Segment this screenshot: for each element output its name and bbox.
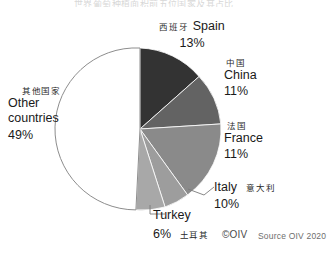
- pie-label-china-en: China: [224, 68, 257, 83]
- pie-label-other-en-line2: countries: [8, 111, 94, 126]
- copyright-mark: ©OIV: [222, 229, 247, 240]
- pie-chart-figure: 世界葡萄种植面积前五位国家及其占比 西班牙 Spain 13%: [0, 0, 330, 256]
- pie-label-other-en-line1: Other: [8, 96, 94, 111]
- pie-label-spain-cn: 西班牙: [159, 22, 188, 32]
- pie-label-italy-pct: 10%: [214, 197, 275, 212]
- pie-label-turkey-pct-row: 6% 土耳其: [153, 224, 208, 243]
- pie-label-china-pct: 11%: [224, 84, 257, 99]
- pie-label-turkey-pct: 6%: [153, 227, 171, 241]
- pie-label-spain: 西班牙 Spain 13%: [146, 16, 238, 51]
- pie-label-spain-name: 西班牙 Spain: [146, 16, 238, 35]
- pie-label-france-pct: 11%: [224, 147, 263, 162]
- pie-label-turkey-en: Turkey: [153, 208, 208, 223]
- pie-label-turkey: Turkey 6% 土耳其: [153, 208, 208, 243]
- pie-label-italy-name: Italy 意大利: [214, 177, 275, 196]
- pie-label-other-countries: 其他国家 Other countries 49%: [8, 86, 94, 142]
- source-note: Source OIV 2020: [258, 231, 326, 241]
- pie-label-france-en: France: [224, 131, 263, 146]
- pie-label-italy-cn: 意大利: [246, 183, 275, 193]
- pie-label-spain-en: Spain: [193, 19, 225, 33]
- pie-label-china-cn: 中国: [226, 58, 257, 68]
- pie-label-china: 中国 China 11%: [224, 58, 257, 99]
- pie-label-france-cn: 法国: [227, 121, 263, 131]
- pie-label-italy-en: Italy: [214, 180, 237, 194]
- pie-label-spain-pct: 13%: [146, 36, 238, 51]
- pie-label-other-cn: 其他国家: [22, 86, 94, 96]
- pie-label-italy: Italy 意大利 10%: [214, 177, 275, 212]
- pie-label-france: 法国 France 11%: [224, 121, 263, 162]
- pie-label-other-pct: 49%: [8, 128, 94, 143]
- pie-label-turkey-cn: 土耳其: [180, 230, 209, 240]
